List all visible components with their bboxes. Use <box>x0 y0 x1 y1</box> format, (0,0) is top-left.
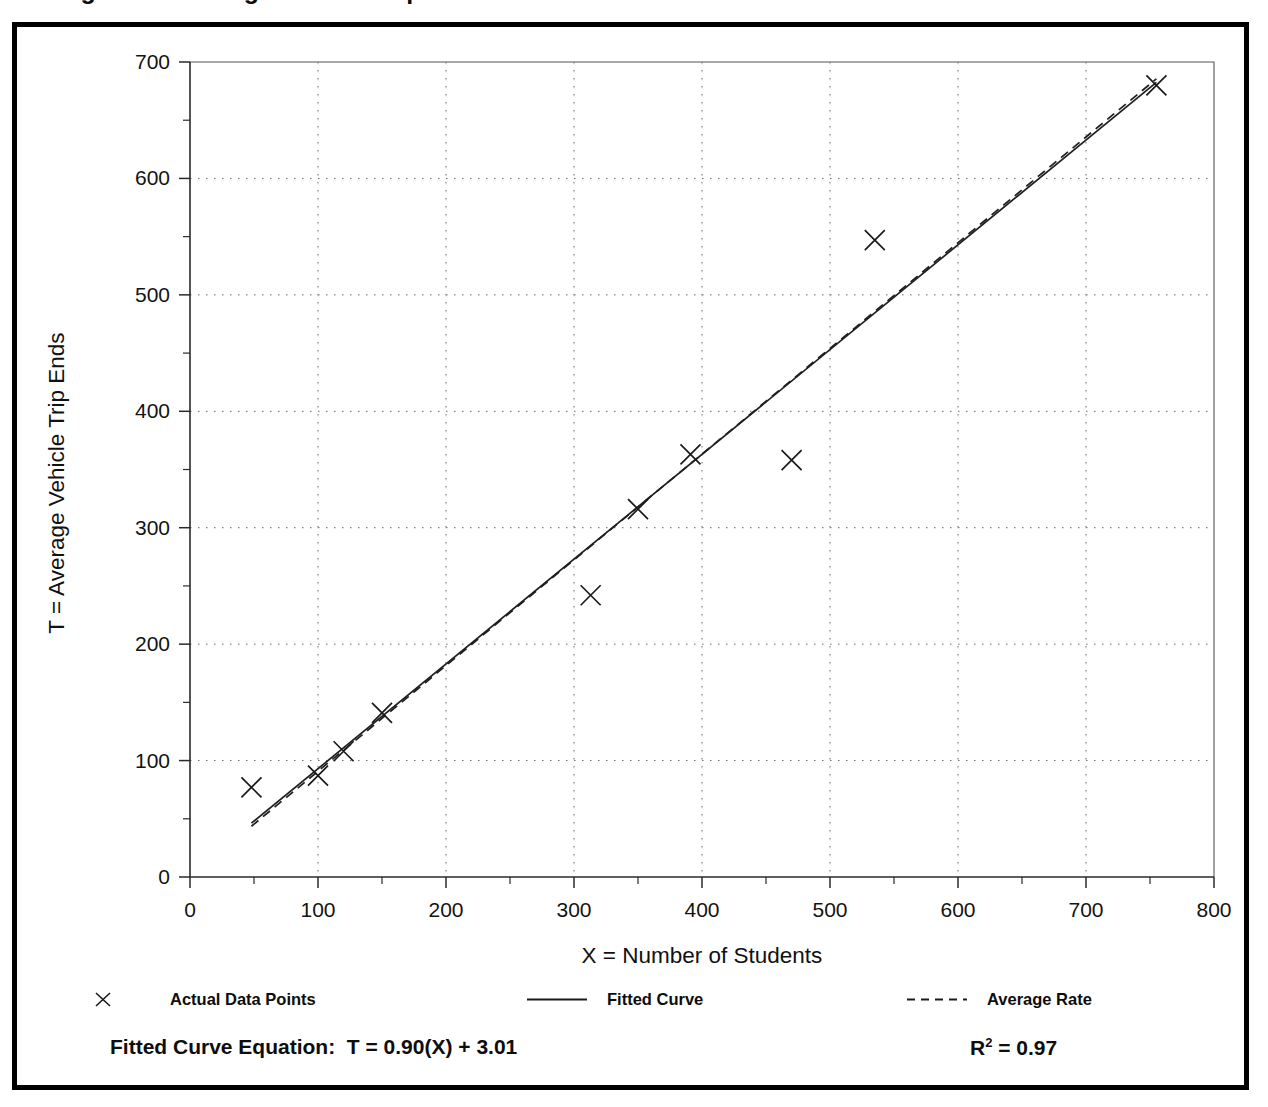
r-squared-exponent: 2 <box>985 1035 992 1050</box>
legend-label-average-rate: Average Rate <box>987 990 1092 1009</box>
y-axis-title: T = Average Vehicle Trip Ends <box>44 283 70 683</box>
r-squared-value: R2 = 0.97 <box>970 1035 1057 1060</box>
cut-off-title-text: Figure — Average Vehicle Trip Ends <box>58 0 491 5</box>
footer-row: Fitted Curve Equation: T = 0.90(X) + 3.0… <box>0 1035 1268 1075</box>
fitted-curve-equation: Fitted Curve Equation: T = 0.90(X) + 3.0… <box>110 1035 517 1059</box>
chart-legend: Actual Data Points Fitted Curve Average … <box>0 986 1268 1016</box>
legend-item-average-rate: Average Rate <box>905 986 1092 1012</box>
solid-line-icon <box>525 989 591 1009</box>
cut-off-title: Figure — Average Vehicle Trip Ends <box>0 0 1268 22</box>
r-squared-number: = 0.97 <box>998 1036 1057 1059</box>
figure-frame <box>12 22 1249 1090</box>
legend-label-actual-data-points: Actual Data Points <box>170 990 316 1009</box>
legend-item-actual-data-points: Actual Data Points <box>88 986 316 1012</box>
equation-value: T = 0.90(X) + 3.01 <box>347 1035 517 1058</box>
cross-marker-icon <box>88 989 154 1009</box>
legend-label-fitted-curve: Fitted Curve <box>607 990 703 1009</box>
equation-label: Fitted Curve Equation: <box>110 1035 335 1058</box>
dashed-line-icon <box>905 989 971 1009</box>
r-squared-label: R <box>970 1036 985 1059</box>
chart-page: Figure — Average Vehicle Trip Ends 01002… <box>0 0 1268 1107</box>
legend-item-fitted-curve: Fitted Curve <box>525 986 703 1012</box>
x-axis-title: X = Number of Students <box>190 943 1214 969</box>
